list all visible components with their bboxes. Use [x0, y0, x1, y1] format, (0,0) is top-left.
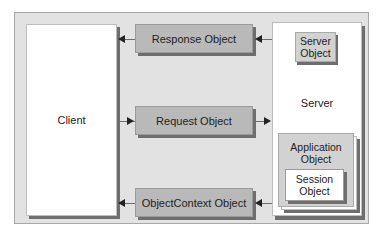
client-box: Client [26, 24, 117, 216]
response-object-box: Response Object [135, 24, 253, 53]
response-object-label: Response Object [152, 33, 236, 45]
arrow-left-icon [118, 199, 125, 207]
arrow-right-icon [264, 117, 271, 125]
server-label: Server [273, 97, 361, 109]
arrow-right-icon [127, 117, 134, 125]
application-object-label: Application Object [286, 141, 346, 165]
objectcontext-object-box: ObjectContext Object [135, 188, 253, 217]
arrow-left-icon [255, 199, 262, 207]
arrow-left-icon [118, 35, 125, 43]
server-object-box: Server Object [295, 32, 336, 62]
session-object-label: Session Object [293, 173, 337, 197]
arrow-left-icon [255, 35, 262, 43]
session-object-box: Session Object [285, 169, 344, 201]
server-object-label: Server Object [296, 35, 335, 59]
client-label: Client [57, 114, 85, 126]
objectcontext-object-label: ObjectContext Object [142, 197, 247, 209]
request-object-box: Request Object [135, 106, 253, 135]
request-object-label: Request Object [156, 115, 232, 127]
